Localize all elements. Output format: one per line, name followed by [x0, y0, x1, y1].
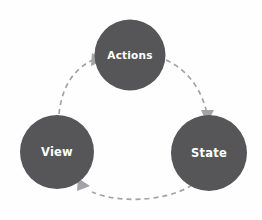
- actions-label: Actions: [107, 49, 152, 61]
- flow-diagram-canvas: Actions View State: [0, 0, 262, 220]
- edge-state-to-view: [92, 185, 192, 199]
- view-label: View: [41, 145, 73, 159]
- edge-view-to-actions: [59, 59, 95, 114]
- node-state[interactable]: State: [171, 115, 247, 191]
- data-flow-diagram: Actions View State: [0, 0, 262, 220]
- node-group: Actions View State: [20, 20, 247, 192]
- node-actions[interactable]: Actions: [95, 20, 166, 91]
- node-view[interactable]: View: [20, 115, 94, 189]
- edge-actions-to-state: [166, 60, 207, 114]
- state-label: State: [191, 146, 227, 160]
